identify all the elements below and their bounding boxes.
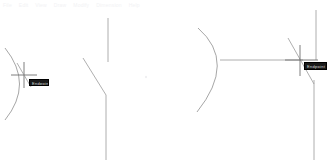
cad-drawing-canvas[interactable]: File Edit View Draw Modify Dimension Hel… bbox=[0, 0, 333, 165]
crosshair-right-icon[interactable] bbox=[285, 45, 318, 76]
arc-right[interactable] bbox=[197, 28, 217, 112]
drawing-viewport[interactable] bbox=[0, 0, 333, 165]
line-diagonal-right[interactable] bbox=[288, 38, 314, 84]
snap-tooltip-right: Endpoint bbox=[304, 62, 327, 70]
faint-center-dot bbox=[145, 76, 147, 78]
arc-left[interactable] bbox=[5, 48, 20, 120]
polyline-middle-diagonal[interactable] bbox=[83, 58, 106, 95]
snap-tooltip-left: Endpoint bbox=[29, 79, 49, 86]
